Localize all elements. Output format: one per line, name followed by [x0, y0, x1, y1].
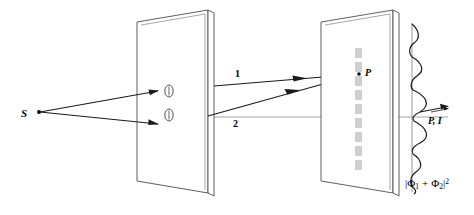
slit-aperture-1 — [165, 85, 173, 97]
screen-side-face — [393, 10, 399, 196]
barrier-side-face — [208, 10, 214, 196]
formula-exponent: 2 — [445, 177, 449, 186]
fringe-band — [355, 104, 362, 114]
double-slit-barrier-panel — [137, 10, 214, 196]
fringe-band — [355, 132, 362, 142]
fringe-band — [355, 90, 362, 100]
formula-sub-1: 1 — [415, 182, 419, 191]
source-label: S — [21, 107, 27, 119]
fringe-band — [355, 62, 362, 72]
fringe-band — [355, 146, 362, 156]
formula-phi-1: Φ — [407, 177, 415, 189]
physics-diagram-double-slit: S 1 2 P P, I |Φ1+Φ2|2 — [0, 0, 474, 215]
fringe-band — [355, 76, 362, 86]
ray-2-label: 2 — [233, 118, 238, 129]
formula-plus: + — [422, 177, 428, 189]
intensity-axis-label: P, I — [428, 115, 443, 126]
fringe-band — [355, 48, 362, 58]
point-p-label: P — [365, 67, 372, 78]
pi-label-overbar-head — [444, 107, 449, 111]
diffracted-ray-1-arrowhead — [293, 76, 308, 82]
interference-fringe-strip — [355, 48, 362, 170]
fringe-band — [355, 160, 362, 170]
point-p-marker — [357, 72, 361, 76]
ray-1-label: 1 — [235, 68, 240, 79]
barrier-front-face — [137, 10, 208, 193]
slit-aperture-2 — [165, 109, 173, 121]
formula-phi-2: Φ — [431, 177, 439, 189]
fringe-band — [355, 118, 362, 128]
